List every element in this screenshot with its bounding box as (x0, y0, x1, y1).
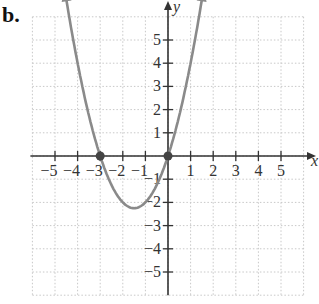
intercept-point (164, 152, 173, 161)
x-tick-label: −3 (86, 162, 103, 179)
x-tick-label: −2 (108, 162, 125, 179)
x-tick-label: −4 (63, 162, 80, 179)
x-tick-label: 5 (277, 162, 285, 179)
x-tick-label: 4 (254, 162, 262, 179)
x-tick-label: −5 (40, 162, 57, 179)
intercept-point (96, 152, 105, 161)
y-tick-label: −5 (144, 263, 161, 280)
y-tick-label: 5 (153, 31, 161, 48)
y-tick-label: 3 (153, 77, 161, 94)
part-label: b. (2, 2, 20, 27)
x-tick-label: 1 (187, 162, 195, 179)
x-tick-label: 3 (232, 162, 240, 179)
y-tick-label: 1 (153, 124, 161, 141)
y-tick-label: −4 (144, 240, 161, 257)
y-tick-label: 4 (153, 54, 161, 71)
y-axis-label: y (171, 0, 181, 16)
y-tick-label: 2 (153, 101, 161, 118)
x-axis-label: x (310, 152, 318, 169)
x-tick-label: 2 (209, 162, 217, 179)
curve-arrows (62, 0, 207, 2)
y-tick-label: −3 (144, 217, 161, 234)
graph: −5−4−3−2−11234554321−1−2−3−4−5 b. y x (0, 0, 319, 304)
